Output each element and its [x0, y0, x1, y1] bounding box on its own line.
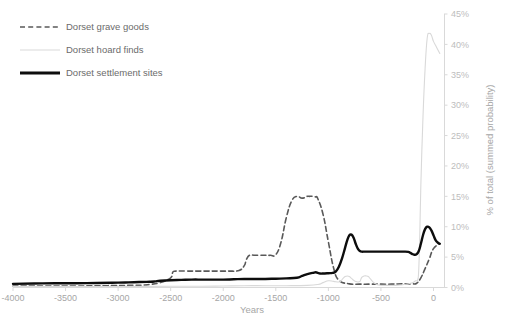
- y-tick-label: 10%: [451, 222, 469, 232]
- x-tick-label: -4000: [1, 293, 24, 303]
- y-tick-label: 20%: [451, 161, 469, 171]
- y-tick-label: 5%: [451, 252, 464, 262]
- x-tick-label: 0: [431, 293, 436, 303]
- x-axis-title: Years: [240, 304, 264, 315]
- y-tick-label: 15%: [451, 192, 469, 202]
- chart-container: -4000-3500-3000-2500-2000-1500-1000-5000…: [0, 0, 507, 323]
- y-tick-label: 35%: [451, 70, 469, 80]
- y-tick-label: 45%: [451, 9, 469, 19]
- x-tick-label: -1000: [317, 293, 340, 303]
- y-tick-label: 30%: [451, 100, 469, 110]
- x-tick-label: -500: [372, 293, 390, 303]
- legend-label-1: Dorset hoard finds: [66, 44, 144, 55]
- y-tick-label: 25%: [451, 131, 469, 141]
- legend-label-0: Dorset grave goods: [66, 21, 149, 32]
- y-tick-label: 40%: [451, 40, 469, 50]
- line-chart: -4000-3500-3000-2500-2000-1500-1000-5000…: [0, 0, 507, 323]
- x-tick-label: -1500: [264, 293, 287, 303]
- x-tick-label: -2000: [212, 293, 235, 303]
- x-tick-label: -3000: [107, 293, 130, 303]
- legend-label-2: Dorset settlement sites: [66, 67, 163, 78]
- x-tick-label: -3500: [54, 293, 77, 303]
- x-tick-label: -2500: [159, 293, 182, 303]
- y-axis-title: % of total (summed probability): [484, 85, 495, 216]
- y-tick-label: 0%: [451, 283, 464, 293]
